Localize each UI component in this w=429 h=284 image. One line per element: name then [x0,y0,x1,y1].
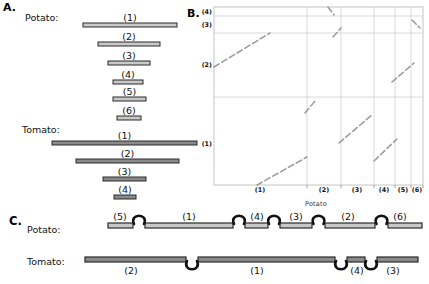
figure-canvas: (1)(2)(3)(4)(5)(6)(4)(3)(2)(1)(1)(2)(3)(… [0,0,429,284]
potato-chain-segment [145,223,233,228]
dotplot-x-tick-label: (3) [352,186,362,194]
panel-c-label: C. [9,214,22,228]
potato-chain-segment [108,223,133,228]
panel-a-tomato-label: Tomato: [22,124,60,135]
potato-chain-segment-label: (1) [182,211,195,222]
inversion-loop-up [376,216,388,224]
tomato-chain-segment-label: (4) [350,265,363,276]
tomato-chain-segment-label: (2) [124,265,137,276]
alignment-segment-forward [214,33,270,67]
potato-bar-label: (4) [121,69,134,80]
tomato-bar [114,195,136,199]
inversion-loop-up [313,216,325,224]
dotplot-y-tick-label: (1) [202,140,212,148]
panel-c-tomato-label: Tomato: [27,256,65,267]
inversion-loop-up [233,216,245,224]
tomato-chain-segment [198,257,335,262]
potato-bar-label: (2) [122,31,135,42]
figure-graphics: (1)(2)(3)(4)(5)(6)(4)(3)(2)(1)(1)(2)(3)(… [0,0,429,284]
potato-chain-segment-label: (4) [250,211,263,222]
dotplot-x-tick-label: (2) [319,186,329,194]
alignment-segment-inverted [328,7,334,15]
inversion-loop-up [133,216,145,224]
tomato-bar [103,177,146,181]
panel-a-potato-label: Potato: [25,12,59,23]
tomato-chain-segment [85,257,186,262]
tomato-bar-label: (2) [121,148,134,159]
alignment-segment-forward [257,157,307,185]
alignment-segment-forward [339,114,373,143]
dotplot-y-tick-label: (3) [202,21,212,29]
potato-chain-segment [388,223,422,228]
inversion-loop-down [365,261,377,269]
inversion-loop-down [335,261,347,269]
potato-chain-segment-label: (3) [289,211,302,222]
potato-bar [117,116,141,120]
tomato-bar [52,141,197,145]
potato-bar [113,80,143,84]
tomato-bar-label: (3) [118,166,131,177]
potato-bar-label: (6) [122,105,135,116]
tomato-chain-segment [347,257,365,262]
potato-bar [108,61,150,65]
dotplot-x-axis-title: Potato [300,200,332,208]
dotplot-x-tick-label: (1) [255,186,265,194]
dotplot-y-tick-label: (4) [202,8,212,16]
inversion-loop-down [186,261,198,269]
alignment-segment-inverted [412,20,420,28]
inversion-loop-up [268,216,280,224]
tomato-bar-label: (1) [118,130,131,141]
alignment-segment-forward [374,139,397,161]
tomato-bar [76,159,179,163]
potato-chain-segment-label: (2) [341,211,354,222]
potato-chain-segment [280,223,312,228]
dotplot-y-tick-label: (2) [202,61,212,69]
potato-chain-segment [245,223,268,228]
dotplot-x-tick-label: (5) [398,186,408,194]
dotplot-x-tick-label: (6) [412,186,422,194]
potato-chain-segment [325,223,375,228]
panel-a-label: A. [3,1,16,14]
dotplot-x-tick-label: (4) [379,186,389,194]
panel-b-label: B. [187,7,200,20]
potato-bar [98,42,160,46]
tomato-bar-label: (4) [118,184,131,195]
tomato-chain-segment-label: (3) [386,265,399,276]
tomato-chain-segment-label: (1) [250,265,263,276]
dotplot-frame [214,7,423,185]
potato-chain-segment-label: (6) [393,211,406,222]
potato-chain-segment-label: (5) [113,211,126,222]
potato-bar-label: (3) [122,50,135,61]
panel-c-potato-label: Potato: [27,224,61,235]
potato-bar [113,97,146,101]
tomato-chain-segment [377,257,418,262]
potato-bar-label: (1) [123,12,136,23]
potato-bar [83,23,177,27]
potato-bar-label: (5) [123,86,136,97]
